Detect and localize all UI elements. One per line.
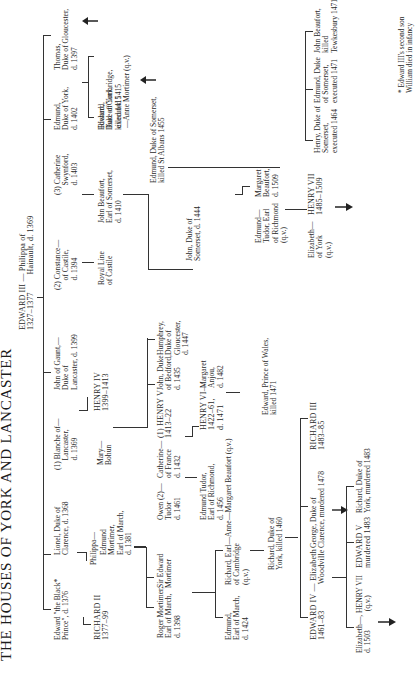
- person-elizabeth-henry-vii: Elizabeth—, HENRY VII d. 1503 (q.v.): [356, 575, 373, 653]
- person-henry-somerset-1464: Henry, Duke of Somerset, executed 1464: [314, 106, 339, 153]
- person-mary-bohun: Mary— Bohun: [97, 441, 114, 465]
- royal-line-castile: Royal Line of Castile: [98, 251, 115, 285]
- person-roger-mortimer: Roger Mortimer, Earl of March, d. 1398: [157, 587, 182, 638]
- tick-richard-iii: [300, 418, 308, 419]
- person-edmund-mortimer: Edmund Mortimer, Earl of March, d. 1381: [100, 511, 134, 556]
- line-york-children-down: [285, 537, 298, 538]
- person-catherine-swynford: (3) Catherine Swynford, d. 1403: [54, 154, 79, 195]
- tick-edward-iv: [300, 617, 308, 618]
- person-humphrey-gloucester: Humphrey, Duke of Gloucester, d. 1447: [157, 321, 191, 356]
- tick-edmund-york: [43, 119, 51, 120]
- tick-roger: [146, 607, 154, 608]
- line-henry6-margaret: [226, 392, 240, 393]
- chart-title: THE HOUSES OF YORK AND LANCASTER: [0, 348, 13, 661]
- tick-george: [300, 506, 308, 507]
- tick-black-prince: [43, 609, 51, 610]
- person-edmund-tudor-richmond: Edmund— Tudor, Earl of Richmond (q.v.): [255, 203, 289, 243]
- person-john-of-gaunt: John of Gaunt,— Duke of Lancaster, d. 13…: [54, 334, 79, 390]
- person-elizabeth-of-york: Elizabeth— of York (q.v.): [308, 222, 333, 258]
- person-henry-vi: HENRY VI— 1422–61, d. 1471: [200, 383, 225, 430]
- person-black-prince: Edward "the Black* Prince", d. 1376: [54, 579, 71, 640]
- person-blanche: (1) Blanche of— Lancaster, d. 1369: [54, 419, 79, 470]
- line-henry6-v: [192, 426, 199, 427]
- line-cambridge-children: [215, 550, 216, 618]
- person-constance: (2) Constance— of Castile, d. 1394: [54, 240, 79, 290]
- tick-richard-york-1483: [346, 486, 354, 487]
- tick-sir-edward: [146, 577, 154, 578]
- line-blanche-henry4: [79, 410, 87, 411]
- person-george-clarence: George, Duke of Clarence, murdered 1478: [310, 471, 327, 548]
- person-edward-iii: EDWARD III — Philippa of 1327–1377 Haina…: [19, 216, 36, 330]
- line-roger-down: [192, 592, 216, 593]
- person-john-beaufort-1410: John Beaufort, Earl of Somerset, d. 1410: [98, 170, 123, 223]
- person-richard-iii: RICHARD III 1483–85: [310, 402, 327, 450]
- person-catherine-of-france: Catherine— of France d. 1432: [157, 441, 182, 478]
- person-richard-ii: RICHARD II 1377–99: [94, 595, 111, 640]
- person-edward-prince-wales: Edward, Prince of Wales, killed 1471: [262, 338, 279, 415]
- person-henry-v: (1) HENRY V 1413–22: [157, 390, 174, 438]
- line-lionel-philippa-h: [86, 552, 87, 561]
- tick-edmund-march: [215, 617, 223, 618]
- person-richard-york-1460: Richard, Duke of York, killed 1460: [268, 517, 285, 570]
- person-lionel: Lionel, Duke of Clarence, d. 1368: [54, 501, 71, 555]
- tick-lionel: [43, 554, 51, 555]
- person-margaret-anjou: Margaret Anjou, d. 1482: [200, 360, 225, 388]
- person-edward-v: EDWARD V murdered 1483: [356, 517, 373, 568]
- person-edmund-somerset-1471: Edmund, Duke of Somerset, executed 1471: [314, 57, 339, 103]
- line-mortimer-v: [134, 547, 147, 548]
- tick-edward-v: [346, 542, 354, 543]
- person-owen-tudor: Owen (2)— Tudor d. 1461: [157, 484, 182, 520]
- line-bp-r2-h: [83, 617, 84, 625]
- person-thomas-gloucester: Thomas, Duke of Gloucester, d. 1397: [54, 9, 79, 70]
- arrow-elizabeth: [378, 617, 396, 627]
- person-henry-vii: HENRY VII 1485–1509: [308, 173, 325, 215]
- person-john-somerset-1444: John, Duke of Somerset, d. 1444: [186, 206, 203, 261]
- line-edward4-down: [332, 577, 346, 578]
- person-richard-earl-cambridge: Richard, Earl—Anne of Cambridge (q.v.): [225, 520, 250, 585]
- person-richard-york-1483: Richard, Duke of York, murdered 1483: [356, 448, 373, 513]
- person-edmund-york: Edmund, Duke of York, d. 1402: [54, 87, 79, 130]
- tick-elizabeth: [346, 627, 354, 628]
- line-richard-york-down: [250, 550, 264, 551]
- person-edmund-march-1424: Edmund, Earl of March, d. 1424: [225, 596, 250, 641]
- person-margaret-beaufort: Margaret Beaufort, d. 1509: [255, 169, 280, 197]
- person-edward-iv: EDWARD IV — Elizabeth 1461–83 Woodville: [310, 549, 327, 640]
- line-gen2: [43, 35, 44, 610]
- line-owen-catherine: [185, 477, 197, 478]
- person-edmund-somerset-1455: Edmund, Duke of Somerset, killed St Alba…: [150, 97, 167, 183]
- tick-humphrey: [147, 339, 155, 340]
- line-som-margaret-v2: [242, 186, 250, 187]
- line-edward4-children: [346, 486, 347, 628]
- tick-henry-somerset: [305, 140, 313, 141]
- person-henry-iv: HENRY IV 1399–1413: [94, 372, 111, 411]
- arrow-henry-vii: [335, 202, 353, 212]
- line-henry-edmund-john: [305, 31, 306, 141]
- line-tudor-henry7: [285, 209, 307, 210]
- line-lionel-philippa: [77, 552, 86, 553]
- line-blanche-henry4-h: [87, 397, 88, 411]
- tick-edmund-somerset-1471: [305, 89, 313, 90]
- person-edmund-tudor: Edmund Tudor, Earl of Richmond, d. 1456 …: [200, 438, 234, 520]
- tick-bedford: [147, 384, 155, 385]
- person-richard-cambridge-executed: Richard, Earl of Cambridge, executed 141…: [98, 55, 132, 128]
- line-som-margaret-v1: [235, 194, 243, 195]
- footnote: * Edward III's second son William died i…: [398, 17, 415, 93]
- line-edward4-siblings: [300, 418, 301, 618]
- tick-edward-york: [88, 117, 94, 118]
- person-sir-edward-mortimer: Sir Edward Mortimer: [157, 554, 174, 588]
- tick-john-beaufort-1471: [305, 31, 313, 32]
- tick-gaunt: [43, 372, 51, 373]
- tick-thomas: [43, 35, 51, 36]
- line-swynford-beaufort: [82, 194, 94, 195]
- line-john-somerset: [148, 269, 193, 270]
- person-john-bedford: John, Duke of Bedford, d. 1435: [157, 355, 182, 390]
- line-henry4-v: [120, 427, 148, 428]
- person-john-beaufort-1471: John Beaufort, killed Tewkesbury 1471: [314, 0, 339, 53]
- arrow-thomas: [82, 16, 98, 26]
- arrow-richard-cambridge: [140, 75, 156, 85]
- line-roger-edward-mortimer: [146, 548, 147, 608]
- line-henry5-henry6-v: [185, 436, 193, 437]
- line-constance-castile: [82, 262, 94, 263]
- line-beaufort-children: [148, 194, 149, 270]
- line-beaufort-down: [123, 194, 149, 195]
